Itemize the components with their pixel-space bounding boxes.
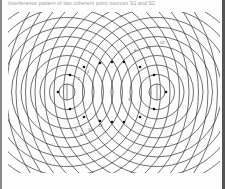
nodal-point bbox=[165, 91, 168, 94]
wavefront-circle-s2 bbox=[83, 18, 226, 167]
wavefront-rings bbox=[0, 0, 225, 189]
wavefront-circle-s2 bbox=[45, 0, 226, 189]
order-label: 12 bbox=[160, 40, 165, 45]
wavefront-circle-s1 bbox=[0, 0, 161, 186]
nodal-point bbox=[83, 116, 86, 119]
nodal-point bbox=[153, 74, 156, 77]
nodal-point bbox=[57, 91, 60, 94]
order-label: 10 bbox=[146, 45, 151, 50]
wavefront-circle-s1 bbox=[0, 8, 151, 176]
nodal-point bbox=[83, 66, 86, 69]
order-label: 12 bbox=[98, 123, 103, 128]
nodal-point bbox=[69, 108, 72, 111]
nodal-point bbox=[111, 121, 114, 124]
nodal-point bbox=[153, 108, 156, 111]
nodal-point bbox=[123, 121, 126, 124]
wavefront-circle-s2 bbox=[64, 0, 226, 186]
order-label: 1 bbox=[149, 90, 152, 95]
order-label: 4 bbox=[87, 69, 90, 74]
nodal-point bbox=[139, 116, 142, 119]
nodal-point bbox=[99, 120, 102, 123]
interference-diagram: 1248101213581012 bbox=[0, 0, 225, 189]
wavefront-circle-s1 bbox=[0, 0, 180, 189]
order-label: 10 bbox=[88, 127, 93, 132]
order-label: 2 bbox=[78, 76, 81, 81]
nodal-point bbox=[139, 66, 142, 69]
order-label: 5 bbox=[75, 127, 78, 132]
order-label: 8 bbox=[80, 132, 83, 137]
nodal-point bbox=[69, 74, 72, 77]
nodal-point bbox=[111, 61, 114, 64]
nodal-point bbox=[123, 61, 126, 64]
nodal-point bbox=[99, 62, 102, 65]
